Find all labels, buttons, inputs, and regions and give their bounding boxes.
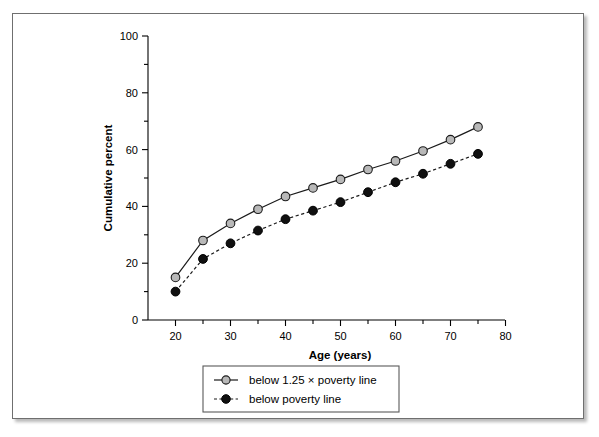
- y-axis-title: Cumulative percent: [102, 124, 114, 231]
- data-point: [364, 188, 373, 197]
- y-tick-label: 80: [126, 87, 138, 99]
- data-point: [336, 198, 345, 207]
- data-point: [419, 169, 428, 178]
- legend: below 1.25 × poverty line below poverty …: [203, 366, 399, 412]
- data-point: [309, 184, 318, 193]
- data-point: [474, 123, 483, 132]
- x-tick-label: 60: [389, 330, 401, 342]
- series-below-poverty-line: [171, 149, 482, 296]
- y-axis-tick-labels: 0 20 40 60 80 100: [120, 30, 138, 326]
- data-point: [199, 255, 208, 264]
- y-tick-label: 0: [132, 314, 138, 326]
- data-point: [419, 147, 428, 156]
- data-point: [446, 159, 455, 168]
- x-axis-tick-labels: 20 30 40 50 60 70 80: [169, 330, 511, 342]
- x-tick-label: 70: [444, 330, 456, 342]
- data-point: [446, 135, 455, 144]
- data-point: [391, 178, 400, 187]
- filled-circle-icon: [222, 395, 231, 404]
- legend-label: below 1.25 × poverty line: [249, 374, 377, 386]
- data-point: [336, 175, 345, 184]
- legend-label: below poverty line: [249, 393, 341, 405]
- data-point: [364, 165, 373, 174]
- data-point: [171, 273, 180, 282]
- data-point: [199, 236, 208, 245]
- screenshot-root: 0 20 40 60 80 100: [0, 0, 599, 437]
- y-tick-label: 20: [126, 257, 138, 269]
- data-point: [254, 205, 263, 214]
- open-circle-icon: [222, 376, 230, 384]
- y-tick-label: 40: [126, 200, 138, 212]
- data-point: [226, 219, 235, 228]
- x-tick-label: 40: [279, 330, 291, 342]
- data-point: [474, 149, 483, 158]
- x-axis-ticks: [176, 320, 506, 326]
- y-tick-label: 60: [126, 144, 138, 156]
- chart-container: 0 20 40 60 80 100: [0, 0, 599, 437]
- data-point: [171, 287, 180, 296]
- series-line: [176, 127, 479, 278]
- data-point: [281, 192, 290, 201]
- x-tick-label: 20: [169, 330, 181, 342]
- x-tick-label: 50: [334, 330, 346, 342]
- x-axis-title: Age (years): [309, 349, 372, 361]
- data-point: [281, 215, 290, 224]
- data-point: [254, 226, 263, 235]
- data-point: [226, 239, 235, 248]
- y-axis-ticks: [142, 36, 148, 320]
- legend-box: [203, 366, 399, 412]
- chart-svg: 0 20 40 60 80 100: [0, 0, 599, 437]
- x-tick-label: 30: [224, 330, 236, 342]
- data-point: [309, 206, 318, 215]
- series-below-125-poverty-line: [171, 123, 482, 282]
- data-series-layer: [171, 123, 482, 296]
- x-tick-label: 80: [499, 330, 511, 342]
- series-line: [176, 154, 479, 292]
- y-tick-label: 100: [120, 30, 138, 42]
- data-point: [391, 157, 400, 166]
